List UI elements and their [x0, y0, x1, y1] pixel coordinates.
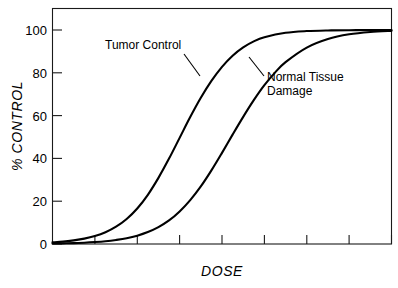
- chart-background: [0, 0, 398, 288]
- y-tick-label-60: 60: [33, 109, 47, 124]
- y-tick-label-40: 40: [33, 151, 47, 166]
- y-tick-label-100: 100: [25, 23, 47, 38]
- annotation-tumor-control-label: Tumor Control: [105, 38, 181, 52]
- annotation-normal-tissue-damage-label-line2: Damage: [267, 84, 313, 98]
- y-tick-label-80: 80: [33, 66, 47, 81]
- y-axis-title: % CONTROL: [9, 81, 25, 171]
- annotation-normal-tissue-damage-label-line1: Normal Tissue: [267, 70, 344, 84]
- x-axis-title: DOSE: [201, 263, 243, 279]
- dose-response-chart: 100 80 60 40 20 0 % CONTROL DOSE Tumor C: [0, 0, 398, 288]
- figure-container: 100 80 60 40 20 0 % CONTROL DOSE Tumor C: [0, 0, 398, 288]
- y-tick-label-20: 20: [33, 194, 47, 209]
- y-tick-label-0: 0: [40, 237, 47, 252]
